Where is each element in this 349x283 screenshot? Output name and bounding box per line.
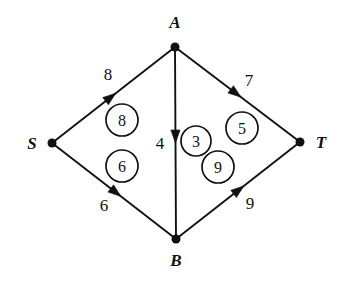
node-label-b: B	[169, 251, 181, 270]
edge-a-b	[171, 51, 180, 234]
node-label-a: A	[168, 13, 180, 32]
edge-b-t	[180, 145, 297, 236]
edges-layer	[56, 50, 297, 237]
flow-network-graph: 86359 86479SABT	[0, 0, 349, 283]
node-dot-a	[171, 43, 180, 52]
capacity-label-a-t: 7	[245, 71, 254, 90]
flow-badge-s-b: 6	[106, 150, 138, 182]
flow-value-a-t: 5	[238, 120, 246, 137]
arrow-head-s-b	[108, 185, 121, 197]
node-dot-s	[48, 139, 57, 148]
labels-layer: 86479SABT	[27, 13, 327, 270]
flow-value-s-b: 6	[118, 158, 126, 175]
arrow-head-a-b	[171, 130, 180, 143]
node-dot-t	[296, 138, 305, 147]
flow-badge-a-t: 5	[226, 112, 258, 144]
flow-network-figure: 86359 86479SABT	[0, 0, 349, 283]
flow-value-s-a: 8	[118, 112, 126, 129]
flow-value-b-t: 9	[214, 159, 222, 176]
capacity-label-s-a: 8	[104, 65, 113, 84]
flow-badge-a-b: 3	[181, 126, 211, 156]
node-label-s: S	[27, 134, 36, 153]
node-dot-b	[172, 235, 181, 244]
arrow-head-a-t	[228, 86, 241, 98]
flow-annotations-layer: 86359	[106, 104, 258, 183]
capacity-label-a-b: 4	[156, 134, 165, 153]
flow-badge-b-t: 9	[202, 151, 234, 183]
flow-badge-s-a: 8	[106, 104, 138, 136]
capacity-label-b-t: 9	[246, 194, 255, 213]
capacity-label-s-b: 6	[100, 196, 109, 215]
flow-value-a-b: 3	[192, 133, 200, 150]
node-label-t: T	[316, 133, 327, 152]
